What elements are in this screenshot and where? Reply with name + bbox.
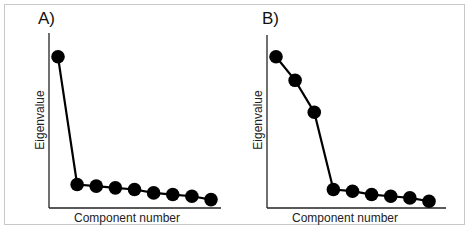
data-point: [70, 178, 84, 192]
data-point: [384, 189, 398, 203]
scree-plots: A) Eigenvalue Component number B) Eigenv…: [0, 0, 473, 238]
data-point: [51, 50, 65, 64]
panel-b-label: B): [262, 9, 279, 28]
panel-b-x-axis-title: Component number: [292, 211, 398, 225]
data-point: [422, 194, 436, 208]
data-point: [89, 179, 103, 193]
panel-a-y-axis-title: Eigenvalue: [33, 90, 47, 150]
data-point: [288, 74, 302, 88]
data-point: [109, 181, 123, 195]
data-point: [346, 184, 360, 198]
panel-a-label: A): [38, 9, 55, 28]
data-point: [403, 191, 417, 205]
panel-b: B) Eigenvalue Component number: [251, 9, 446, 225]
data-point: [307, 105, 321, 119]
panel-a: A) Eigenvalue Component number: [33, 9, 221, 225]
data-point: [269, 50, 283, 64]
data-point: [185, 189, 199, 203]
data-point: [365, 188, 379, 202]
panel-a-x-axis-title: Component number: [74, 211, 180, 225]
data-point: [327, 183, 341, 197]
data-point: [204, 193, 218, 207]
data-point: [166, 188, 180, 202]
data-point: [147, 186, 161, 200]
series-line: [58, 57, 211, 200]
panel-b-y-axis-title: Eigenvalue: [251, 90, 265, 150]
panel-a-series: [51, 50, 218, 206]
data-point: [128, 183, 142, 197]
panel-b-series: [269, 50, 436, 208]
